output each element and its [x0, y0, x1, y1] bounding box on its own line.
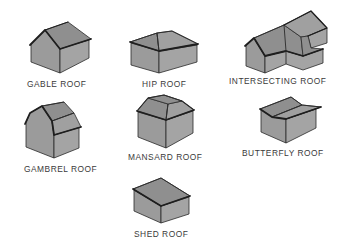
gable-roof-house [30, 22, 91, 73]
mansard-roof-house [137, 95, 194, 148]
gable-roof-label: GABLE ROOF [27, 79, 86, 89]
mansard-roof-label: MANSARD ROOF [128, 152, 202, 162]
butterfly-roof-house [260, 97, 321, 143]
gambrel-roof-label: GAMBREL ROOF [24, 164, 97, 174]
shed-roof-house [133, 178, 190, 223]
roof-types-diagram: GABLE ROOF HIP ROOF INTERSECTING ROOF GA… [0, 0, 342, 252]
hip-roof-label: HIP ROOF [142, 79, 186, 89]
shed-roof-label: SHED ROOF [134, 229, 188, 239]
intersecting-roof-label: INTERSECTING ROOF [229, 76, 326, 86]
roof-illustrations [0, 0, 342, 252]
butterfly-roof-label: BUTTERFLY ROOF [242, 148, 324, 158]
hip-roof-house [130, 31, 198, 73]
gambrel-roof-house [25, 102, 81, 158]
intersecting-roof-house [245, 11, 327, 73]
